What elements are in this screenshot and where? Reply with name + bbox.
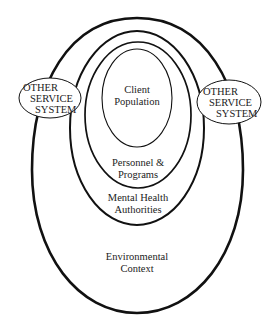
layer-mental-health-authorities: Mental Health Authorities	[70, 31, 204, 225]
label-other-service-system-left-line3: SYSTEM	[35, 104, 77, 115]
label-other-service-system-left-line2: SERVICE	[30, 93, 73, 104]
nested-systems-diagram: Environmental Context Mental Health Auth…	[0, 0, 276, 326]
label-client-population-line1: Client	[124, 84, 150, 95]
label-personnel-programs-line1: Personnel &	[112, 157, 164, 168]
label-environmental-context-line2: Context	[120, 263, 153, 274]
layer-personnel-programs: Personnel & Programs	[85, 42, 191, 188]
label-personnel-programs-line2: Programs	[118, 169, 158, 180]
label-mental-health-authorities-line1: Mental Health	[108, 192, 169, 203]
layer-client-population: Client Population	[102, 49, 172, 147]
label-other-service-system-right-line2: SERVICE	[209, 97, 252, 108]
label-client-population-line2: Population	[114, 96, 160, 107]
label-other-service-system-right-line1: OTHER	[203, 86, 238, 97]
label-environmental-context-line1: Environmental	[106, 251, 168, 262]
node-other-service-system-right: OTHER SERVICE SYSTEM	[197, 80, 261, 124]
label-other-service-system-left-line1: OTHER	[23, 82, 58, 93]
node-other-service-system-left: OTHER SERVICE SYSTEM	[19, 78, 81, 118]
label-other-service-system-right-line3: SYSTEM	[216, 108, 258, 119]
label-mental-health-authorities-line2: Authorities	[114, 204, 161, 215]
